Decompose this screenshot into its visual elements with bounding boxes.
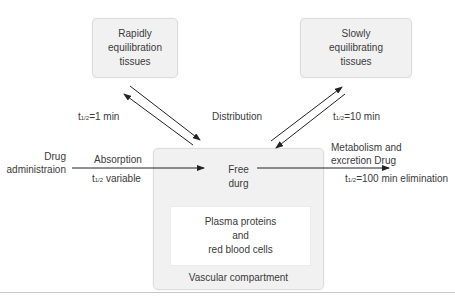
arrow-to-rapid-tissues [124, 94, 193, 145]
absorption-label: Absorption [94, 153, 142, 166]
elimination-half-life-label: t1/2=100 min elimination [345, 172, 448, 187]
metabolism-line-2: excretion Drug [331, 154, 402, 167]
rapid-half-life-label: t1/2=1 min [78, 110, 119, 125]
distribution-label: Distribution [212, 110, 262, 123]
bottom-divider [0, 292, 455, 293]
metabolism-line-1: Metabolism and [331, 141, 402, 154]
slow-half-life-label: t1/2=10 min [333, 110, 380, 125]
absorption-half-life-label: t1/2 variable [92, 172, 141, 187]
arrow-from-rapid-tissues [130, 86, 200, 140]
metabolism-excretion-label: Metabolism and excretion Drug [331, 141, 402, 167]
drug-admin-line-2: administraion [6, 163, 66, 176]
drug-admin-line-1: Drug [6, 150, 66, 163]
drug-administration-label: Drug administraion [6, 150, 66, 176]
arrow-to-slow-tissues [271, 87, 342, 141]
